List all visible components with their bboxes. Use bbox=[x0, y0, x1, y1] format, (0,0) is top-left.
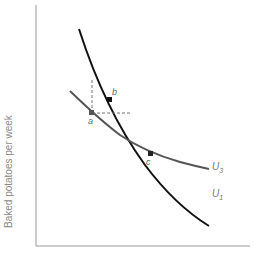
u1-label-sub: 1 bbox=[219, 194, 223, 201]
point-b bbox=[107, 97, 112, 102]
point-c bbox=[148, 151, 153, 156]
y-axis-label: Baked potatoes per week bbox=[3, 115, 14, 228]
point-b-label: b bbox=[112, 87, 117, 97]
indifference-curve-diagram bbox=[0, 0, 253, 256]
u3-label: U3 bbox=[212, 161, 223, 174]
point-a-label: a bbox=[88, 116, 93, 126]
curve-u1 bbox=[79, 29, 209, 226]
point-c-label: c bbox=[146, 157, 151, 167]
point-a bbox=[89, 110, 94, 115]
u3-label-sub: 3 bbox=[219, 167, 223, 174]
u1-label: U1 bbox=[212, 188, 223, 201]
